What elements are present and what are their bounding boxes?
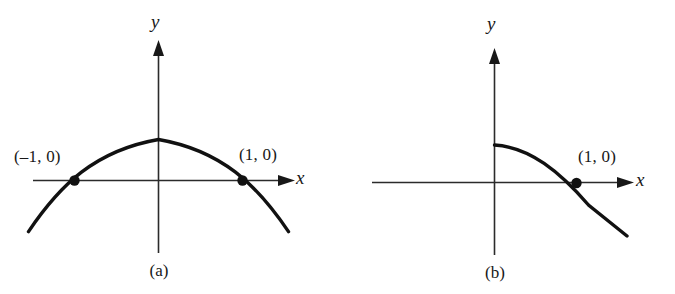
x-axis-label-a: x [296, 168, 304, 187]
x-axis-arrowhead-icon [617, 177, 634, 188]
panel-caption-b: (b) [455, 264, 535, 281]
point-label-one-zero-a: (1, 0) [239, 146, 277, 163]
x-axis-group [372, 177, 634, 188]
figure-container: y x (–1, 0) (1, 0) (a) y x (1, 0) [0, 0, 675, 294]
x-axis-arrowhead-icon [278, 175, 295, 186]
y-axis-arrowhead-icon [153, 40, 164, 56]
x-axis-label-b: x [636, 170, 644, 189]
marked-point-one-zero-a [237, 175, 247, 185]
figure-panel-b: y x (1, 0) (b) [338, 0, 675, 294]
y-axis-arrowhead-icon [489, 48, 500, 64]
y-axis-group [153, 40, 164, 253]
y-axis-group [489, 48, 500, 255]
y-axis-label-a: y [151, 12, 159, 31]
panel-caption-a: (a) [119, 262, 199, 279]
marked-point-one-zero-b [571, 178, 581, 188]
point-label-one-zero-b: (1, 0) [578, 148, 616, 165]
marked-point-minus-one-zero [69, 175, 79, 185]
panel-b-graph [338, 0, 675, 294]
y-axis-label-b: y [487, 14, 495, 33]
figure-panel-a: y x (–1, 0) (1, 0) (a) [0, 0, 338, 294]
point-label-minus-one-zero: (–1, 0) [14, 148, 61, 165]
